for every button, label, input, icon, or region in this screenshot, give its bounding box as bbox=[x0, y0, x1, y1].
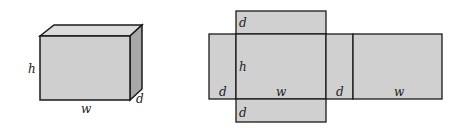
box-front-face bbox=[40, 36, 130, 100]
net-height-label: h bbox=[239, 60, 247, 74]
box-top-face bbox=[40, 25, 142, 36]
box-width-label: w bbox=[81, 102, 92, 116]
box-3d: h w d bbox=[28, 25, 144, 116]
box-depth-label: d bbox=[136, 92, 144, 106]
net-bottom-flap bbox=[236, 99, 326, 122]
net-front-width-label: w bbox=[276, 85, 287, 99]
net-back-width-label: w bbox=[394, 85, 405, 99]
net-bottom-flap-label: d bbox=[239, 106, 247, 120]
box-height-label: h bbox=[28, 62, 36, 76]
net-top-flap-label: d bbox=[239, 16, 247, 30]
box-side-face bbox=[130, 25, 142, 100]
net-left-side-label: d bbox=[219, 85, 227, 99]
net-right-side-label: d bbox=[336, 85, 344, 99]
box-and-net-diagram: h w d d h d w d w d bbox=[0, 0, 468, 133]
net-top-flap bbox=[236, 11, 326, 34]
